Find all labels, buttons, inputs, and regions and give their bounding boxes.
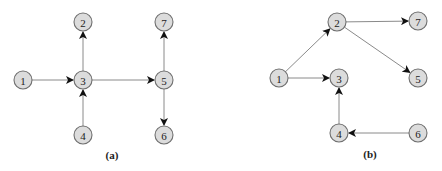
node-1: 1	[270, 69, 288, 87]
diagram-a-caption: (a)	[106, 149, 119, 162]
node-label: 3	[80, 75, 86, 87]
node-4: 4	[74, 126, 92, 144]
node-label: 4	[336, 128, 342, 140]
node-5: 5	[155, 71, 173, 89]
node-2: 2	[74, 13, 92, 31]
node-label: 2	[80, 17, 86, 29]
graph-diagrams-canvas: 1234567 (a) 1234567 (b)	[0, 0, 442, 171]
node-5: 5	[409, 69, 427, 87]
node-2: 2	[328, 13, 346, 31]
diagram-b-nodes: 1234567	[270, 12, 427, 142]
node-label: 4	[80, 130, 86, 142]
node-label: 6	[161, 130, 167, 142]
diagram-a: 1234567 (a)	[14, 13, 173, 162]
edge-2-to-5	[344, 27, 409, 72]
diagram-b-caption: (b)	[363, 148, 377, 161]
node-label: 5	[415, 73, 421, 85]
diagram-b: 1234567 (b)	[270, 12, 427, 161]
node-label: 2	[334, 17, 340, 29]
node-label: 3	[336, 73, 342, 85]
node-3: 3	[74, 71, 92, 89]
edge-1-to-2	[285, 29, 329, 72]
node-label: 1	[20, 75, 26, 87]
node-4: 4	[330, 124, 348, 142]
node-3: 3	[330, 69, 348, 87]
node-label: 5	[161, 75, 167, 87]
node-6: 6	[155, 126, 173, 144]
diagram-a-nodes: 1234567	[14, 13, 173, 144]
edge-2-to-7	[346, 21, 408, 22]
node-6: 6	[409, 124, 427, 142]
node-label: 7	[415, 16, 421, 28]
node-label: 7	[161, 17, 167, 29]
node-7: 7	[409, 12, 427, 30]
node-7: 7	[155, 13, 173, 31]
node-1: 1	[14, 71, 32, 89]
diagram-a-edges	[32, 32, 164, 126]
node-label: 1	[276, 73, 282, 85]
node-label: 6	[415, 128, 421, 140]
